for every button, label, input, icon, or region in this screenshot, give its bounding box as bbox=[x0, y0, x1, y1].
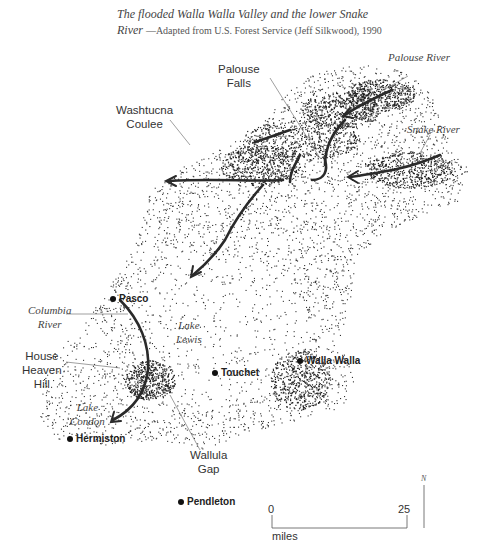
north-label: N bbox=[421, 474, 426, 483]
scale-min: 0 bbox=[268, 503, 274, 515]
city-marker-icon bbox=[110, 296, 116, 302]
label-lake-lewis: Lake Lewis bbox=[176, 318, 202, 346]
snake-river-leader bbox=[420, 135, 430, 153]
label-house-heaven-line1: House bbox=[22, 349, 62, 363]
city-touchet-label: Touchet bbox=[221, 367, 259, 378]
label-washtucna-line1: Washtucna bbox=[116, 103, 173, 117]
label-columbia-line2: River bbox=[28, 317, 71, 331]
label-lake-condon-line2: Condon bbox=[70, 414, 105, 428]
washtucna-flow-arrow bbox=[168, 180, 283, 181]
label-wallula-gap: Wallula Gap bbox=[190, 448, 227, 476]
label-lake-lewis-line2: Lewis bbox=[176, 332, 202, 346]
label-palouse-river: Palouse River bbox=[388, 50, 450, 64]
label-house-heaven-line2: Heaven bbox=[22, 363, 62, 377]
flow-arrows bbox=[111, 90, 440, 422]
city-marker-icon bbox=[178, 499, 184, 505]
label-wallula-line2: Gap bbox=[190, 462, 227, 476]
label-columbia-line1: Columbia bbox=[28, 303, 71, 317]
label-lake-lewis-line1: Lake bbox=[176, 318, 202, 332]
label-lake-condon: Lake Condon bbox=[70, 400, 105, 428]
label-palouse-falls: Palouse Falls bbox=[218, 62, 260, 90]
leader-lines bbox=[66, 76, 430, 450]
label-palouse-falls-line2: Falls bbox=[218, 76, 260, 90]
scale-bar bbox=[272, 515, 407, 528]
scale-unit: miles bbox=[272, 530, 298, 542]
city-pasco: Pasco bbox=[110, 293, 148, 304]
label-columbia-river: Columbia River bbox=[28, 303, 71, 331]
city-pasco-label: Pasco bbox=[119, 293, 148, 304]
city-marker-icon bbox=[297, 358, 303, 364]
house-heaven-leader bbox=[66, 362, 120, 368]
label-wallula-line1: Wallula bbox=[190, 448, 227, 462]
label-palouse-falls-line1: Palouse bbox=[218, 62, 260, 76]
city-pendleton: Pendleton bbox=[178, 496, 235, 507]
city-pendleton-label: Pendleton bbox=[187, 496, 235, 507]
city-walla-walla-label: Walla Walla bbox=[306, 355, 360, 366]
city-walla-walla: Walla Walla bbox=[297, 355, 360, 366]
columbia-river-arrow bbox=[113, 300, 148, 420]
city-hermiston: Hermiston bbox=[67, 433, 125, 444]
city-hermiston-label: Hermiston bbox=[76, 433, 125, 444]
main-channel-arrow bbox=[193, 185, 263, 275]
label-washtucna-line2: Coulee bbox=[116, 117, 173, 131]
scale-max: 25 bbox=[398, 503, 410, 515]
stipple-terrain bbox=[40, 65, 468, 449]
label-snake-river: Snake River bbox=[407, 122, 460, 136]
label-washtucna-coulee: Washtucna Coulee bbox=[116, 103, 173, 131]
city-marker-icon bbox=[67, 436, 73, 442]
label-lake-condon-line1: Lake bbox=[70, 400, 105, 414]
label-house-heaven-hill: House Heaven Hill bbox=[22, 349, 62, 391]
city-touchet: Touchet bbox=[212, 367, 259, 378]
city-marker-icon bbox=[212, 370, 218, 376]
label-house-heaven-line3: Hill bbox=[22, 377, 62, 391]
